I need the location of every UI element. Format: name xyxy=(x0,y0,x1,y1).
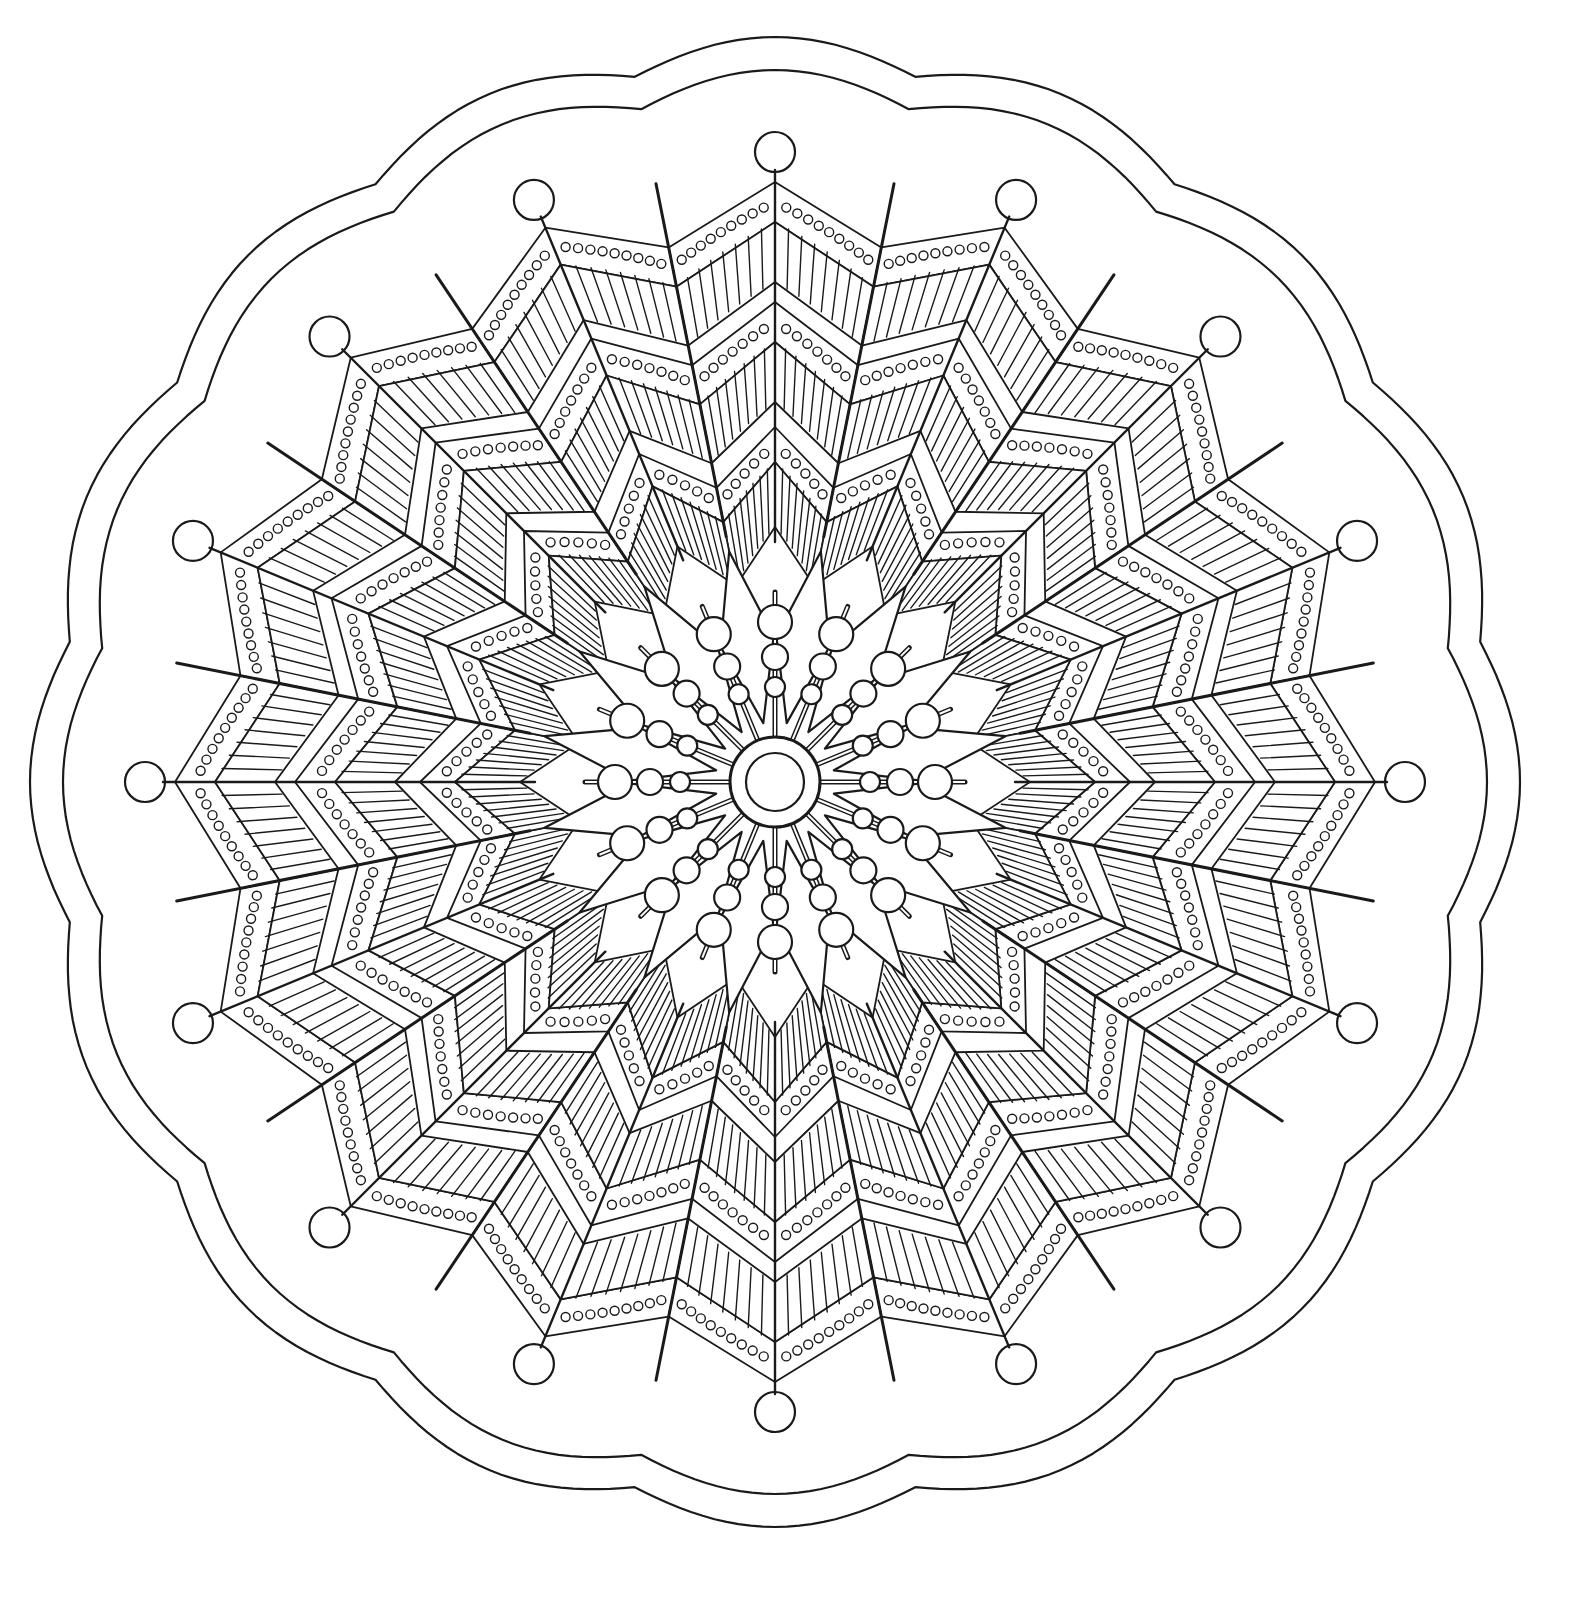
ray-bead xyxy=(765,867,785,887)
mandala-illustration xyxy=(0,0,1575,1605)
ray-bead xyxy=(853,736,873,756)
ray-bead xyxy=(810,654,836,680)
outer-bead xyxy=(755,1392,795,1432)
ray-bead xyxy=(906,826,940,860)
ray-bead xyxy=(610,826,644,860)
outer-bead xyxy=(996,180,1036,220)
ray-bead xyxy=(762,644,788,670)
ray-bead xyxy=(758,605,792,639)
ray-bead xyxy=(877,721,903,747)
ray-bead xyxy=(832,839,852,859)
ray-bead xyxy=(819,913,853,947)
ray-bead xyxy=(729,684,749,704)
ray-bead xyxy=(871,878,905,912)
ray-bead xyxy=(645,652,679,686)
ray-bead xyxy=(765,677,785,697)
ray-bead xyxy=(610,704,644,738)
ray-bead xyxy=(714,884,740,910)
outer-bead xyxy=(1385,762,1425,802)
ray-bead xyxy=(887,769,913,795)
outer-bead xyxy=(514,180,554,220)
outer-bead xyxy=(173,521,213,561)
ray-bead xyxy=(698,705,718,725)
outer-bead xyxy=(996,1344,1036,1384)
ray-bead xyxy=(670,772,690,792)
ray-bead xyxy=(729,860,749,880)
ray-bead xyxy=(758,925,792,959)
center-disc xyxy=(730,737,820,827)
ray-bead xyxy=(850,857,876,883)
ray-bead xyxy=(762,894,788,920)
outer-bead xyxy=(514,1344,554,1384)
ray-bead xyxy=(697,913,731,947)
outer-bead xyxy=(755,132,795,172)
ray-bead xyxy=(714,654,740,680)
outer-bead xyxy=(125,762,165,802)
ray-bead xyxy=(674,857,700,883)
ray-bead xyxy=(697,617,731,651)
ray-bead xyxy=(698,839,718,859)
ray-bead xyxy=(645,878,679,912)
center-inner-ring xyxy=(746,753,804,811)
ray-bead xyxy=(918,765,952,799)
ray-bead xyxy=(850,681,876,707)
ray-bead xyxy=(801,684,821,704)
ray-bead xyxy=(647,817,673,843)
ray-bead xyxy=(853,808,873,828)
ray-bead xyxy=(598,765,632,799)
outer-bead xyxy=(173,1003,213,1043)
ray-bead xyxy=(906,704,940,738)
ray-bead xyxy=(647,721,673,747)
mandala-coloring-page xyxy=(0,0,1575,1605)
ray-bead xyxy=(677,736,697,756)
ray-bead xyxy=(871,652,905,686)
ray-bead xyxy=(810,884,836,910)
ray-bead xyxy=(637,769,663,795)
ray-bead xyxy=(674,681,700,707)
outer-bead xyxy=(1337,521,1377,561)
ray-bead xyxy=(860,772,880,792)
ray-bead xyxy=(819,617,853,651)
outer-bead xyxy=(1337,1003,1377,1043)
ray-bead xyxy=(677,808,697,828)
ray-bead xyxy=(801,860,821,880)
ray-bead xyxy=(832,705,852,725)
ray-bead xyxy=(877,817,903,843)
